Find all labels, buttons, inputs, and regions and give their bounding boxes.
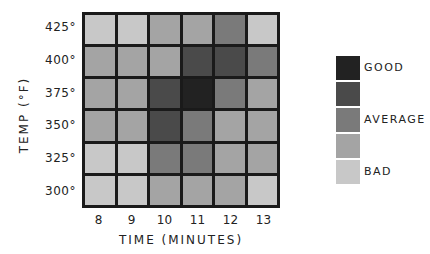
heatmap-cell [248, 176, 278, 205]
legend-swatch [336, 108, 360, 132]
heatmap-cell [248, 47, 278, 76]
heatmap-cell [150, 111, 180, 140]
heatmap-cell [183, 47, 213, 76]
y-axis-label: TEMP (°F) [17, 75, 31, 155]
heatmap-cell [85, 79, 115, 108]
heatmap-cell [85, 144, 115, 173]
legend-swatch [336, 134, 360, 158]
heatmap-cell [150, 15, 180, 44]
x-axis-label: TIME (MINUTES) [82, 233, 280, 247]
legend-swatch [336, 82, 360, 106]
heatmap-cell [150, 144, 180, 173]
y-tick-label: 325° [40, 151, 76, 165]
x-tick-label: 9 [115, 213, 148, 227]
heatmap-cell [183, 79, 213, 108]
x-tick-label: 11 [181, 213, 214, 227]
heatmap-cell [248, 79, 278, 108]
heatmap-cell [215, 111, 245, 140]
heatmap-cell [215, 176, 245, 205]
y-tick-label: 350° [40, 118, 76, 132]
legend-label: AVERAGE [364, 113, 426, 126]
y-tick-label: 375° [40, 86, 76, 100]
x-tick-label: 8 [82, 213, 115, 227]
heatmap-cell [248, 111, 278, 140]
legend-swatch [336, 160, 360, 184]
heatmap-cell [150, 47, 180, 76]
heatmap-cell [183, 176, 213, 205]
y-tick-label: 400° [40, 53, 76, 67]
heatmap-cell [215, 15, 245, 44]
heatmap-cell [85, 47, 115, 76]
y-tick-label: 300° [40, 184, 76, 198]
legend-swatch [336, 56, 360, 80]
heatmap-cell [150, 176, 180, 205]
heatmap-cell [215, 47, 245, 76]
legend-label: BAD [364, 165, 392, 178]
heatmap-cell [118, 111, 148, 140]
heatmap-cell [248, 144, 278, 173]
heatmap-cell [183, 111, 213, 140]
y-tick-label: 425° [40, 20, 76, 34]
legend-label: GOOD [364, 61, 404, 74]
heatmap-grid [82, 12, 280, 208]
heatmap-cell [150, 79, 180, 108]
heatmap-cell [118, 79, 148, 108]
heatmap-cell [183, 144, 213, 173]
heatmap-cell [118, 15, 148, 44]
x-tick-label: 13 [247, 213, 280, 227]
heatmap-cell [118, 176, 148, 205]
heatmap-cell [183, 15, 213, 44]
heatmap-cell [118, 47, 148, 76]
heatmap-cell [85, 15, 115, 44]
heatmap-cell [85, 111, 115, 140]
heatmap-cell [248, 15, 278, 44]
x-tick-label: 12 [214, 213, 247, 227]
heatmap-cell [85, 176, 115, 205]
heatmap-cell [215, 79, 245, 108]
heatmap-cell [118, 144, 148, 173]
legend [336, 56, 360, 186]
x-tick-label: 10 [148, 213, 181, 227]
heatmap-cell [215, 144, 245, 173]
